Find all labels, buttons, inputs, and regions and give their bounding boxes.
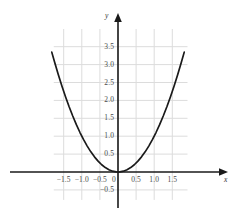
y-tick-label: 0.5 [104,150,114,158]
y-tick-label: 3.0 [104,61,114,69]
y-tick-label: −0.5 [100,186,114,194]
x-tick-label: −1.5 [57,176,71,184]
origin-label: 0 [112,176,116,184]
y-tick-label: 1.5 [104,115,114,123]
y-axis-label: y [105,12,108,20]
x-axis-label: x [224,176,227,184]
x-tick-label: −1.0 [75,176,89,184]
y-tick-label: 2.5 [104,79,114,87]
y-tick-label: 3.5 [104,43,114,51]
x-tick-label: −0.5 [93,176,107,184]
x-tick-label: 1.0 [149,176,159,184]
y-tick-label: 1.0 [104,132,114,140]
parabola-chart-figure: −1.5−1.0−0.50.51.01.5−0.50.51.01.52.02.5… [0,0,236,220]
y-tick-label: 2.0 [104,97,114,105]
plot-canvas [0,0,236,220]
x-tick-label: 0.5 [131,176,141,184]
y-axis-arrowhead [114,13,122,22]
x-tick-label: 1.5 [167,176,177,184]
